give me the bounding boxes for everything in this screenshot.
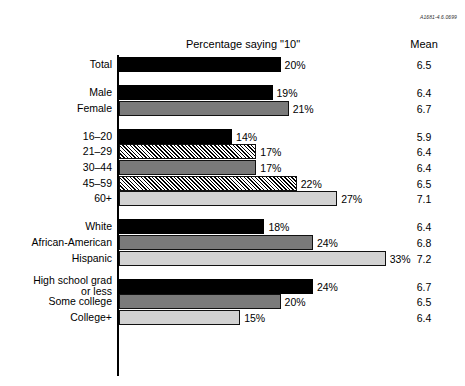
bar-value-label: 21%: [293, 103, 314, 115]
row-label: 45–59: [0, 178, 112, 190]
mean-value: 6.4: [396, 312, 452, 324]
mean-value: 6.5: [396, 178, 452, 190]
table-row: Total20%6.5: [0, 57, 465, 72]
table-row: Some college20%6.5: [0, 294, 465, 309]
bar-value-label: 20%: [285, 59, 306, 71]
table-row: High school grad or less24%6.7: [0, 279, 465, 294]
bar-value-label: 15%: [244, 312, 265, 324]
table-row: 16–2014%5.9: [0, 129, 465, 144]
bar-3: [119, 101, 289, 116]
row-label: Total: [0, 59, 112, 71]
bar-6: [119, 160, 256, 175]
bar-value-label: 17%: [260, 162, 281, 174]
row-label: White: [0, 221, 112, 233]
bar-11: [119, 251, 386, 266]
mean-value: 6.5: [396, 59, 452, 71]
table-row: White18%6.4: [0, 219, 465, 234]
bar-value-label: 18%: [268, 221, 289, 233]
row-label: 21–29: [0, 146, 112, 158]
bar-value-label: 24%: [317, 237, 338, 249]
bar-10: [119, 235, 313, 250]
row-label: Some college: [0, 296, 112, 308]
mean-value: 6.5: [396, 296, 452, 308]
row-label: Hispanic: [0, 253, 112, 265]
mean-value: 6.4: [396, 221, 452, 233]
row-label: College+: [0, 312, 112, 324]
row-label: 60+: [0, 193, 112, 205]
bar-chart-plot: Total20%6.5Male19%6.4Female21%6.716–2014…: [0, 0, 465, 386]
mean-value: 5.9: [396, 131, 452, 143]
table-row: African-American24%6.8: [0, 235, 465, 250]
bar-value-label: 17%: [260, 146, 281, 158]
bar-5: [119, 144, 256, 159]
table-row: 30–4417%6.4: [0, 160, 465, 175]
row-label: African-American: [0, 237, 112, 249]
row-label: 16–20: [0, 131, 112, 143]
row-label: Male: [0, 87, 112, 99]
mean-value: 6.7: [396, 281, 452, 293]
bar-1: [119, 57, 281, 72]
table-row: Hispanic33%7.2: [0, 251, 465, 266]
mean-value: 7.1: [396, 193, 452, 205]
mean-value: 6.4: [396, 146, 452, 158]
bar-value-label: 22%: [301, 178, 322, 190]
mean-value: 7.2: [396, 253, 452, 265]
bar-value-label: 19%: [277, 87, 298, 99]
bar-12: [119, 279, 313, 294]
bar-value-label: 20%: [285, 296, 306, 308]
table-row: 60+27%7.1: [0, 191, 465, 206]
bar-13: [119, 294, 281, 309]
bar-value-label: 24%: [317, 281, 338, 293]
table-row: 45–5922%6.5: [0, 176, 465, 191]
bar-4: [119, 129, 232, 144]
bar-9: [119, 219, 264, 234]
mean-value: 6.4: [396, 87, 452, 99]
bar-14: [119, 310, 240, 325]
row-label: 30–44: [0, 162, 112, 174]
bar-value-label: 14%: [236, 131, 257, 143]
bar-7: [119, 176, 297, 191]
table-row: 21–2917%6.4: [0, 144, 465, 159]
bar-8: [119, 191, 337, 206]
mean-value: 6.4: [396, 162, 452, 174]
mean-value: 6.8: [396, 237, 452, 249]
table-row: Male19%6.4: [0, 85, 465, 100]
bar-value-label: 27%: [341, 193, 362, 205]
table-row: Female21%6.7: [0, 101, 465, 116]
table-row: College+15%6.4: [0, 310, 465, 325]
mean-value: 6.7: [396, 103, 452, 115]
bar-2: [119, 85, 273, 100]
row-label: Female: [0, 103, 112, 115]
